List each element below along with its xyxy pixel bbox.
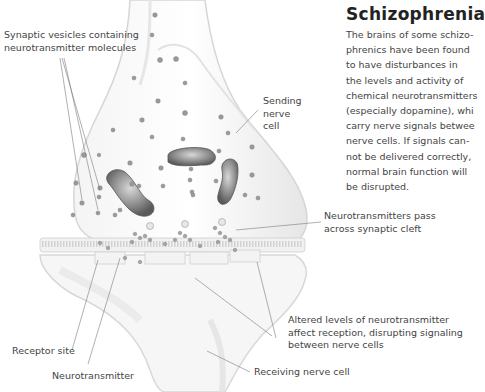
label-receiving-nerve-cell: Receiving nerve cell xyxy=(254,366,350,379)
description-line: the levels and activity of xyxy=(346,73,476,88)
description-line: nerve cells. If signals can- xyxy=(346,133,476,148)
label-line: nerve xyxy=(263,108,302,121)
label-line: Neurotransmitters pass xyxy=(324,210,436,223)
label-line: Sending xyxy=(263,95,302,108)
label-line: between nerve cells xyxy=(288,339,463,352)
description-line: (especially dopamine), whi xyxy=(346,103,476,118)
label-line: cell xyxy=(263,120,302,133)
label-line: across synaptic cleft xyxy=(324,223,436,236)
description-line: chemical neurotransmitters xyxy=(346,88,476,103)
description-line: phrenics have been found xyxy=(346,42,476,57)
label-sending-nerve-cell: Sending nerve cell xyxy=(263,95,302,133)
label-synaptic-cleft: Neurotransmitters pass across synaptic c… xyxy=(324,210,436,235)
description-line: be disrupted. xyxy=(346,179,476,194)
label-line: affect reception, disrupting signaling xyxy=(288,327,463,340)
description-line: not be delivered correctly, xyxy=(346,149,476,164)
page-title: Schizophrenia xyxy=(346,4,485,24)
label-neurotransmitter: Neurotransmitter xyxy=(52,370,134,383)
label-altered-levels: Altered levels of neurotransmitter affec… xyxy=(288,314,463,352)
label-line: Synaptic vesicles containing xyxy=(4,29,122,42)
label-line: neurotransmitter molecules xyxy=(4,42,122,55)
label-line: Altered levels of neurotransmitter xyxy=(288,314,463,327)
description-line: to have disturbances in xyxy=(346,57,476,72)
description-line: The brains of some schizo- xyxy=(346,27,476,42)
label-receptor-site: Receptor site xyxy=(12,345,75,358)
description-line: carry nerve signals betwee xyxy=(346,118,476,133)
description-line: normal brain function will xyxy=(346,164,476,179)
label-synaptic-vesicles: Synaptic vesicles containing neurotransm… xyxy=(4,29,122,54)
description-text: The brains of some schizo- phrenics have… xyxy=(346,27,476,194)
